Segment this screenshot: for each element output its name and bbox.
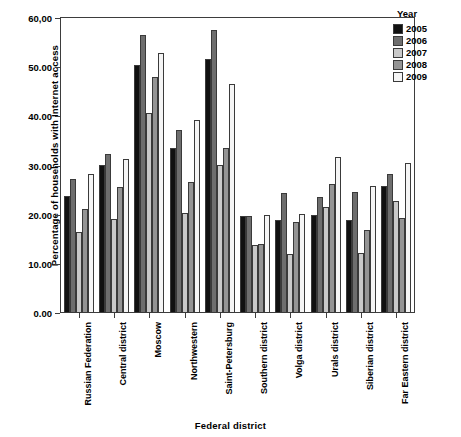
bar xyxy=(335,157,341,313)
x-tick-mark xyxy=(114,313,115,318)
bar-group xyxy=(167,18,202,313)
x-tick-label: Southern district xyxy=(259,322,269,394)
legend-label: 2008 xyxy=(406,59,427,70)
legend: Year 20052006200720082009 xyxy=(393,8,427,83)
legend-item: 2006 xyxy=(393,35,427,46)
legend-label: 2009 xyxy=(406,71,427,82)
bar-group xyxy=(237,18,272,313)
legend-swatch xyxy=(393,72,403,82)
x-tick-label: Northwestern xyxy=(189,322,199,380)
bar-chart: Percentage of households with Internet a… xyxy=(0,0,461,437)
legend-swatch xyxy=(393,36,403,46)
x-tick-label: Far Eastern district xyxy=(400,322,410,404)
legend-label: 2006 xyxy=(406,35,427,46)
x-tick-label: Siberian district xyxy=(365,322,375,390)
bar-group xyxy=(96,18,131,313)
x-tick-label: Central district xyxy=(118,322,128,386)
x-tick-mark xyxy=(290,313,291,318)
x-tick-mark xyxy=(396,313,397,318)
bar-group xyxy=(202,18,237,313)
x-tick-label: Russian Federation xyxy=(83,322,93,406)
y-tick-label: 30.00 xyxy=(6,160,52,171)
bar-group xyxy=(273,18,308,313)
bar-group xyxy=(132,18,167,313)
bar xyxy=(88,174,94,313)
bars-area xyxy=(61,18,414,313)
x-tick-mark xyxy=(185,313,186,318)
bar xyxy=(299,214,305,313)
bar-group xyxy=(61,18,96,313)
x-tick-label: Urals district xyxy=(330,322,340,377)
x-tick-mark xyxy=(220,313,221,318)
bar-group xyxy=(343,18,378,313)
x-tick-label: Volga district xyxy=(294,322,304,378)
y-tick-label: 40.00 xyxy=(6,111,52,122)
legend-label: 2007 xyxy=(406,47,427,58)
bar xyxy=(370,186,376,313)
bar xyxy=(194,120,200,313)
x-tick-label: Saint-Petersburg xyxy=(224,322,234,395)
x-tick-mark xyxy=(79,313,80,318)
legend-item: 2007 xyxy=(393,47,427,58)
x-tick-mark xyxy=(361,313,362,318)
x-tick-mark xyxy=(326,313,327,318)
y-tick-label: 0.00 xyxy=(6,308,52,319)
bar xyxy=(264,215,270,313)
legend-item: 2008 xyxy=(393,59,427,70)
legend-title: Year xyxy=(397,8,427,19)
y-tick-label: 20.00 xyxy=(6,209,52,220)
x-tick-mark xyxy=(149,313,150,318)
legend-item: 2005 xyxy=(393,23,427,34)
y-tick-mark xyxy=(55,313,60,314)
legend-swatch xyxy=(393,60,403,70)
x-tick-mark xyxy=(255,313,256,318)
legend-label: 2005 xyxy=(406,23,427,34)
y-tick-label: 60,00 xyxy=(6,13,52,24)
legend-item: 2009 xyxy=(393,71,427,82)
legend-swatch xyxy=(393,24,403,34)
x-tick-label: Moscow xyxy=(153,322,163,358)
bar xyxy=(158,53,164,313)
y-tick-label: 10.00 xyxy=(6,258,52,269)
x-axis-title: Federal district xyxy=(0,420,461,431)
bar-group xyxy=(308,18,343,313)
y-tick-label: 50.00 xyxy=(6,62,52,73)
bar xyxy=(405,163,411,313)
bar xyxy=(123,159,129,313)
bar xyxy=(229,84,235,313)
legend-swatch xyxy=(393,48,403,58)
